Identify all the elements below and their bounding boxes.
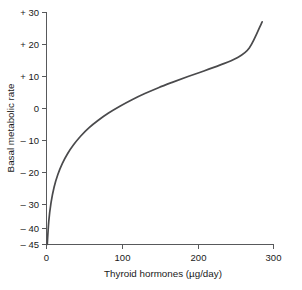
x-tick-label: 100 <box>115 252 131 263</box>
x-tick-label: 0 <box>44 252 49 263</box>
y-axis-ticks <box>42 13 47 245</box>
y-tick-label: – 10 <box>21 135 40 146</box>
y-tick-label: – 45 <box>21 239 40 250</box>
y-tick-label: – 40 <box>21 223 40 234</box>
y-tick-label: – 30 <box>21 199 40 210</box>
y-tick-label: + 20 <box>20 39 39 50</box>
y-tick-label: + 10 <box>20 71 39 82</box>
y-tick-label: + 30 <box>20 7 39 18</box>
basal-metabolic-rate-line-chart: + 30 + 20 + 10 0 – 10 – 20 – 30 – 40 – 4… <box>0 0 302 290</box>
x-axis-ticks <box>47 245 274 250</box>
data-curve-basal-metabolic-rate <box>47 22 262 245</box>
y-axis-title: Basal metabolic rate <box>5 83 16 172</box>
chart-figure: + 30 + 20 + 10 0 – 10 – 20 – 30 – 40 – 4… <box>0 0 302 290</box>
x-tick-label: 200 <box>191 252 207 263</box>
y-tick-label: 0 <box>34 103 39 114</box>
x-axis-title: Thyroid hormones (µg/day) <box>104 268 222 279</box>
y-tick-label: – 20 <box>21 167 40 178</box>
x-tick-label: 300 <box>266 252 282 263</box>
